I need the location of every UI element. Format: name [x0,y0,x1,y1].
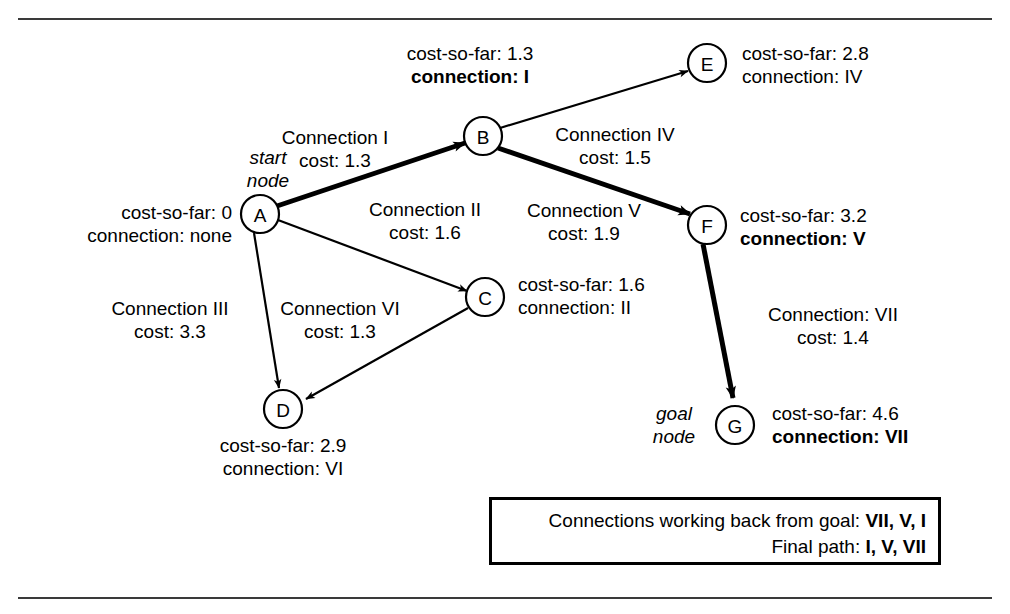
summary-backtrack-prefix: Connections working back from goal: [549,510,866,531]
node-C-letter: C [478,288,492,309]
edge-II-name-label: Connection II [330,198,520,221]
node-G-letter: G [728,416,743,437]
edge-IV-name-label: Connection IV [520,123,710,146]
summary-final-path-value: I, V, VII [865,536,926,557]
node-C[interactable]: C [466,278,504,316]
node-B-connection-label: connection: I [411,65,529,88]
edge-V-name-label: Connection V [494,199,674,222]
node-E-connection-label: connection: IV [742,65,862,88]
node-C-connection-label: connection: II [518,296,631,319]
edge-VII-cost-label: cost: 1.4 [738,326,928,349]
node-E[interactable]: E [688,44,726,82]
node-G-role-line1: goal [640,402,708,425]
node-A-letter: A [254,205,267,226]
summary-final-path-prefix: Final path: [771,536,865,557]
diagram-page: A B C D E F G [0,0,1010,614]
node-C-cost-label: cost-so-far: 1.6 [518,273,645,296]
node-A-connection-label: connection: none [20,224,232,247]
node-F-cost-label: cost-so-far: 3.2 [740,204,867,227]
edge-I-name-label: Connection I [245,126,425,149]
node-D-cost-label: cost-so-far: 2.9 [183,434,383,457]
edge-III-name-label: Connection III [75,297,265,320]
edge-VI-name-label: Connection VI [245,297,435,320]
edge-I-cost-label: cost: 1.3 [245,149,425,172]
node-F-letter: F [701,216,713,237]
node-F[interactable]: F [688,206,726,244]
edge-IV-cost-label: cost: 1.5 [520,146,710,169]
node-B-letter: B [477,127,490,148]
node-D-connection-label: connection: VI [183,457,383,480]
node-F-connection-label: connection: V [740,227,866,250]
edge-III-cost-label: cost: 3.3 [75,320,265,343]
node-B[interactable]: B [464,117,502,155]
node-G-role-line2: node [640,425,708,448]
summary-box: Connections working back from goal: VII,… [489,497,941,565]
node-G[interactable]: G [716,406,754,444]
node-D[interactable]: D [264,390,302,428]
node-A-cost-label: cost-so-far: 0 [40,201,232,224]
node-A-role-line2: node [228,169,308,192]
node-G-cost-label: cost-so-far: 4.6 [772,402,899,425]
node-G-connection-label: connection: VII [772,425,908,448]
edge-VI-cost-label: cost: 1.3 [245,320,435,343]
edge-II-cost-label: cost: 1.6 [330,221,520,244]
node-E-cost-label: cost-so-far: 2.8 [742,42,869,65]
node-B-cost-label: cost-so-far: 1.3 [407,42,534,65]
node-D-letter: D [276,400,290,421]
summary-line-backtrack: Connections working back from goal: VII,… [492,508,926,534]
node-A[interactable]: A [241,195,279,233]
edge-V-cost-label: cost: 1.9 [494,222,674,245]
edge-connection-VII [703,244,733,398]
edge-VII-name-label: Connection: VII [738,303,928,326]
summary-line-final-path: Final path: I, V, VII [492,534,926,560]
summary-backtrack-value: VII, V, I [865,510,926,531]
node-E-letter: E [701,54,714,75]
